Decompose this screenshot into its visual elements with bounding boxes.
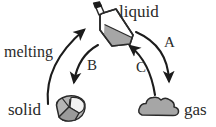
gas-cloud-icon bbox=[139, 97, 179, 115]
state-label-liquid: liquid bbox=[119, 3, 159, 20]
transition-label-melting: melting bbox=[4, 44, 53, 60]
transition-label-b: B bbox=[87, 58, 97, 73]
state-label-solid: solid bbox=[8, 101, 41, 118]
state-label-gas: gas bbox=[184, 101, 207, 118]
phase-change-diagram: liquid solid gas melting A B C bbox=[0, 0, 216, 127]
transition-label-c: C bbox=[136, 60, 146, 75]
transition-label-a: A bbox=[164, 35, 175, 50]
solid-rock-icon bbox=[57, 96, 86, 121]
